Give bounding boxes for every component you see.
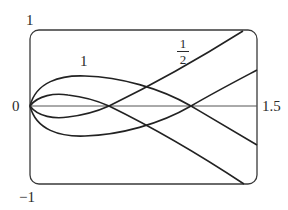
plot-canvas (0, 0, 288, 210)
x-right-tick-label: 1.5 (262, 99, 281, 114)
curve-1-lower (30, 70, 257, 136)
plot-frame (30, 30, 257, 184)
x-left-tick-label: 0 (12, 99, 20, 114)
curve-half-upper (30, 94, 244, 184)
curve-half-lower (30, 31, 243, 118)
y-bottom-tick-label: −1 (19, 190, 35, 205)
y-top-tick-label: 1 (26, 13, 34, 28)
curve-half-label: 1 2 (177, 37, 189, 66)
fraction-numerator: 1 (180, 36, 187, 51)
fraction-denominator: 2 (180, 52, 187, 67)
curve-1-label: 1 (80, 54, 88, 69)
